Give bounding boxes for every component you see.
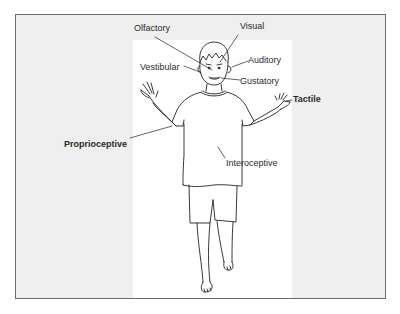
shirt [172, 91, 254, 187]
label-olfactory: Olfactory [134, 24, 170, 33]
tactile-leader [286, 100, 292, 101]
leader-lines [130, 35, 292, 158]
auditory-leader [232, 61, 248, 67]
right-arm [250, 93, 290, 125]
label-auditory: Auditory [248, 56, 281, 65]
left-arm [141, 82, 176, 126]
visual-leader [220, 35, 238, 62]
proprioceptive-leader [130, 126, 172, 138]
interoceptive-leader [218, 147, 225, 158]
child-figure-drawing [0, 0, 400, 314]
label-vestibular: Vestibular [140, 63, 180, 72]
legs [197, 221, 233, 292]
shorts [189, 185, 237, 223]
label-tactile: Tactile [293, 95, 321, 104]
label-gustatory: Gustatory [240, 77, 279, 86]
label-proprioceptive: Proprioceptive [64, 140, 127, 149]
label-visual: Visual [240, 22, 264, 31]
label-interoceptive: Interoceptive [226, 159, 278, 168]
